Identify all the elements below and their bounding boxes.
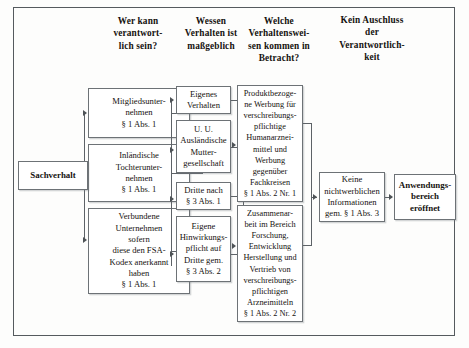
arrowhead-to-zusammenarbeit — [232, 243, 236, 249]
arrowhead-to-verbundene — [83, 237, 87, 243]
node-produktbezogene-werbung-label: Produktbezoge-ne Werbung fürverschreibun… — [240, 88, 300, 199]
node-eigenes-verhalten[interactable]: EigenesVerhalten — [176, 86, 231, 114]
arrowhead-to-keine-informationen — [313, 194, 317, 200]
node-zusammenarbeit-forschung[interactable]: Zusammenar-beit im BereichForschung,Entw… — [237, 205, 303, 322]
node-dritte-nach-3-abs-1[interactable]: Dritte nach§ 3 Abs. 1 — [176, 182, 231, 210]
column-header-kein-auschluss: Kein AuschlussderVerantwortlich-keit — [325, 14, 419, 64]
arrowhead-to-produktbezogene-werbung — [232, 142, 236, 148]
node-keine-nichtwerblichen-informationen[interactable]: KeinenichtwerblichenInformationengem. § … — [319, 172, 385, 222]
node-zusammenarbeit-forschung-label: Zusammenar-beit im BereichForschung,Entw… — [240, 208, 300, 319]
node-produktbezogene-werbung[interactable]: Produktbezoge-ne Werbung fürverschreibun… — [237, 85, 303, 202]
diagram-canvas: Wer kannverantwort-lich sein? WessenVerh… — [0, 0, 469, 348]
node-eigene-hinwirkungspflicht[interactable]: EigeneHinwirkungs-pflicht aufDritte gem.… — [176, 216, 231, 282]
arrowhead-to-hinwirkungspflicht — [170, 251, 174, 257]
node-dritte-nach-3-abs-1-label: Dritte nach§ 3 Abs. 1 — [179, 185, 228, 208]
arrowhead-to-auslaendische-mutter — [170, 147, 174, 153]
bus-line-column4 — [311, 123, 312, 246]
node-auslaendische-muttergesellschaft[interactable]: U. U.AusländischeMutter-gesellschaft — [176, 120, 231, 173]
bus-line-column2 — [171, 100, 172, 266]
node-sachverhalt[interactable]: Sachverhalt — [18, 161, 88, 190]
node-anwendungsbereich-eroeffnet-label: Anwendungs-bereicheröffnet — [397, 180, 453, 214]
arrowhead-to-dritte — [170, 196, 174, 202]
arrowhead-to-result — [389, 194, 393, 200]
node-auslaendische-muttergesellschaft-label: U. U.AusländischeMutter-gesellschaft — [179, 124, 228, 169]
arrowhead-to-mitgliedsunternehmen — [83, 110, 87, 116]
column-header-welche-verhaltensweisen: WelcheVerhaltenswei-sen kommen inBetrach… — [236, 15, 322, 65]
node-sachverhalt-label: Sachverhalt — [21, 170, 85, 181]
node-keine-nichtwerblichen-informationen-label: KeinenichtwerblichenInformationengem. § … — [322, 174, 382, 219]
node-anwendungsbereich-eroeffnet[interactable]: Anwendungs-bereicheröffnet — [394, 174, 456, 220]
bus2-tie-b — [171, 173, 203, 174]
node-eigenes-verhalten-label: EigenesVerhalten — [179, 89, 228, 112]
node-eigene-hinwirkungspflicht-label: EigeneHinwirkungs-pflicht aufDritte gem.… — [179, 221, 228, 277]
arrowhead-to-eigenes-verhalten — [170, 97, 174, 103]
